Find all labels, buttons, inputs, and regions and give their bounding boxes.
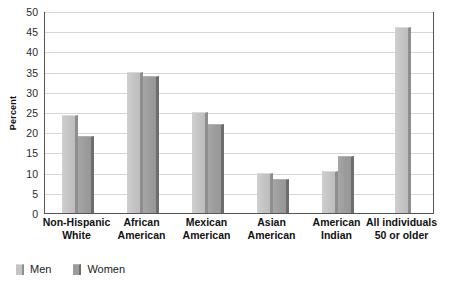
y-tick-label: 15 xyxy=(26,147,38,159)
bar-women xyxy=(208,124,224,213)
bar-men xyxy=(322,171,338,213)
legend-label: Men xyxy=(30,263,51,275)
bar-women xyxy=(338,156,354,213)
legend-item-women[interactable]: Women xyxy=(73,263,125,275)
x-axis-label-line: All individuals xyxy=(361,216,442,229)
legend: MenWomen xyxy=(16,263,125,275)
legend-item-men[interactable]: Men xyxy=(16,263,51,275)
bar-chart: Percent 05101520253035404550 Non-Hispani… xyxy=(0,0,460,288)
y-tick-label: 5 xyxy=(32,188,38,200)
men-swatch-icon xyxy=(16,264,24,275)
bar-women xyxy=(273,179,289,213)
y-tick-label: 35 xyxy=(26,67,38,79)
y-tick-label: 30 xyxy=(26,87,38,99)
bars-layer xyxy=(45,12,433,213)
bar-group xyxy=(240,12,305,213)
y-tick-label: 40 xyxy=(26,46,38,58)
y-axis-tick-labels: 05101520253035404550 xyxy=(0,0,44,288)
bar-men xyxy=(62,115,78,213)
legend-label: Women xyxy=(87,263,125,275)
bar-group xyxy=(305,12,370,213)
bar-group xyxy=(370,12,435,213)
y-tick-label: 10 xyxy=(26,168,38,180)
bar-men xyxy=(395,27,411,213)
bar-group xyxy=(175,12,240,213)
y-tick-label: 50 xyxy=(26,6,38,18)
bar-women xyxy=(78,136,94,213)
bar-group xyxy=(110,12,175,213)
y-tick-label: 25 xyxy=(26,107,38,119)
bar-group xyxy=(45,12,110,213)
x-axis-label: All individuals50 or older xyxy=(361,216,442,242)
y-tick-label: 45 xyxy=(26,26,38,38)
bar-women xyxy=(143,76,159,213)
bar-men xyxy=(127,72,143,213)
x-axis-category-labels: Non-HispanicWhiteAfricanAmericanMexicanA… xyxy=(44,216,434,256)
bar-men xyxy=(257,173,273,213)
plot-area xyxy=(44,12,434,214)
y-tick-label: 20 xyxy=(26,127,38,139)
bar-men xyxy=(192,112,208,213)
women-swatch-icon xyxy=(73,264,81,275)
x-axis-label-line: 50 or older xyxy=(361,229,442,242)
